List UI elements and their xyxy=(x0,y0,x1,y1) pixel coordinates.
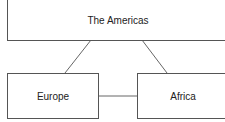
node-label: The Americas xyxy=(87,15,148,26)
node-the-americas: The Americas xyxy=(7,0,225,41)
node-europe: Europe xyxy=(7,73,99,119)
node-africa: Africa xyxy=(137,73,225,119)
node-label: Europe xyxy=(37,91,69,102)
edge-americas-africa xyxy=(142,40,167,73)
edge-americas-europe xyxy=(65,40,91,73)
node-label: Africa xyxy=(170,91,196,102)
